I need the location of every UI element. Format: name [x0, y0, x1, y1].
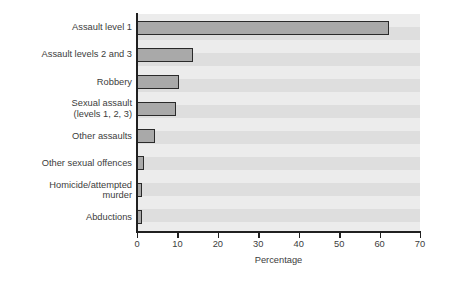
bar: [137, 48, 193, 62]
bar-chart: Assault level 1Assault levels 2 and 3Rob…: [0, 0, 455, 283]
x-tick: [420, 233, 421, 238]
category-label: Abductions: [0, 212, 132, 223]
category-axis-labels: Assault level 1Assault levels 2 and 3Rob…: [0, 14, 132, 231]
category-label: Robbery: [0, 77, 132, 88]
category-label: Other assaults: [0, 131, 132, 142]
x-tick-label: 60: [360, 239, 400, 249]
bar: [137, 156, 144, 170]
x-tick-label: 30: [238, 239, 278, 249]
x-tick: [137, 233, 138, 238]
x-axis-title: Percentage: [137, 255, 420, 265]
x-tick-label: 20: [198, 239, 238, 249]
category-label: Sexual assault (levels 1, 2, 3): [0, 98, 132, 119]
category-label: Assault level 1: [0, 22, 132, 33]
bar: [137, 129, 155, 143]
plot-area: [137, 14, 420, 231]
x-tick: [218, 233, 219, 238]
bar: [137, 75, 179, 89]
x-tick-label: 70: [400, 239, 440, 249]
x-tick: [380, 233, 381, 238]
x-tick-label: 50: [319, 239, 359, 249]
x-tick-label: 0: [117, 239, 157, 249]
x-tick: [299, 233, 300, 238]
category-label: Homicide/attempted murder: [0, 180, 132, 201]
bar: [137, 21, 389, 35]
x-tick: [177, 233, 178, 238]
category-label: Other sexual offences: [0, 158, 132, 169]
x-tick: [339, 233, 340, 238]
x-tick-label: 40: [279, 239, 319, 249]
category-label: Assault levels 2 and 3: [0, 49, 132, 60]
y-axis-line: [136, 13, 138, 232]
x-tick-label: 10: [157, 239, 197, 249]
bar: [137, 102, 176, 116]
background-bands: [137, 14, 420, 231]
x-tick: [258, 233, 259, 238]
